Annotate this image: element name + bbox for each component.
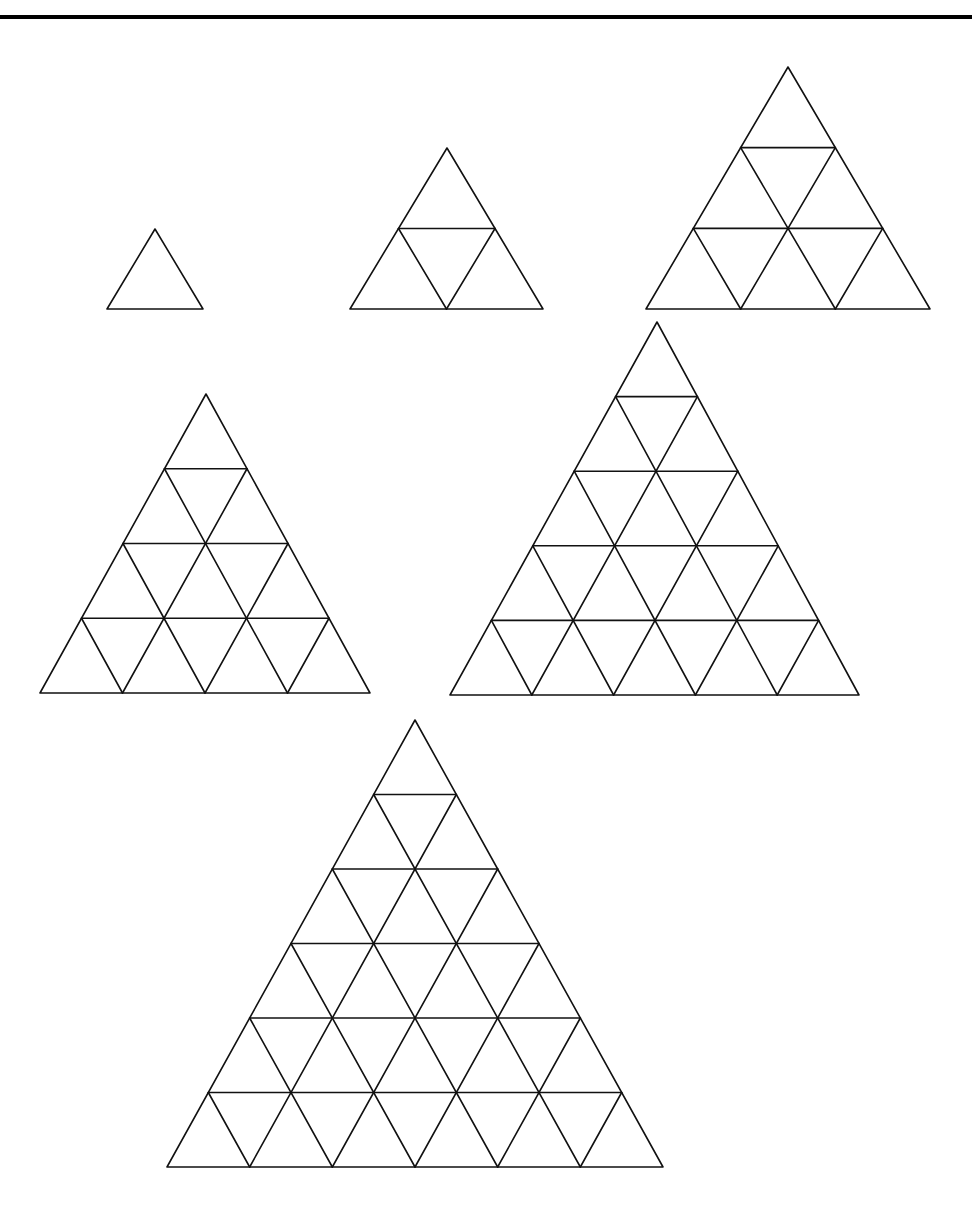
right-parallel-grid-line bbox=[399, 229, 447, 310]
triangle-1-row bbox=[107, 229, 203, 309]
left-parallel-grid-line bbox=[123, 469, 248, 693]
left-parallel-grid-line bbox=[580, 1093, 621, 1168]
left-parallel-grid-line bbox=[415, 944, 539, 1168]
left-parallel-grid-line bbox=[835, 228, 882, 309]
right-parallel-grid-line bbox=[82, 618, 123, 693]
right-parallel-grid-line bbox=[374, 795, 581, 1168]
left-parallel-grid-line bbox=[288, 618, 330, 693]
triangle-diagram-canvas bbox=[0, 0, 972, 1207]
left-parallel-grid-line bbox=[250, 795, 457, 1168]
outer-triangle-outline bbox=[107, 229, 203, 309]
right-parallel-grid-line bbox=[574, 471, 695, 695]
triangle-4-rows bbox=[40, 394, 370, 693]
triangle-6-rows bbox=[167, 720, 663, 1167]
right-parallel-grid-line bbox=[208, 1093, 249, 1168]
right-parallel-grid-line bbox=[291, 944, 415, 1168]
left-parallel-grid-line bbox=[777, 620, 818, 695]
triangle-3-rows bbox=[646, 67, 930, 309]
left-parallel-grid-line bbox=[447, 229, 496, 310]
left-parallel-grid-line bbox=[614, 471, 738, 695]
right-parallel-grid-line bbox=[693, 228, 740, 309]
outer-triangle-outline bbox=[450, 322, 859, 695]
right-parallel-grid-line bbox=[491, 620, 531, 695]
triangle-5-rows bbox=[450, 322, 859, 695]
triangle-2-rows bbox=[350, 148, 543, 309]
outer-triangle-outline bbox=[646, 67, 930, 309]
right-parallel-grid-line bbox=[165, 469, 288, 693]
